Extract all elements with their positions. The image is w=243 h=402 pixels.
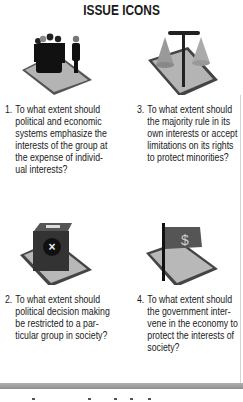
issue-question-1: 1. To what extent should political and e… bbox=[5, 104, 106, 176]
question-line: the majority rule in its bbox=[147, 116, 238, 128]
page-title: ISSUE ICONS bbox=[18, 2, 225, 18]
majority-minority-scale-icon bbox=[140, 25, 220, 95]
issue-question-2: 2. To what extent should political decis… bbox=[5, 294, 106, 342]
dollar-flag-icon: $ bbox=[140, 215, 220, 285]
issue-question-3: 3. To what extent should the majority ru… bbox=[137, 104, 238, 164]
group-vs-individual-icon bbox=[14, 25, 94, 95]
question-line: ticular group in society? bbox=[15, 330, 106, 342]
question-line: vene in the economy to bbox=[147, 318, 238, 330]
question-line: interests of the group at bbox=[15, 140, 106, 152]
question-line: the government inter- bbox=[147, 306, 238, 318]
issue-number: 4. bbox=[137, 294, 144, 306]
question-line: be restricted to a par- bbox=[15, 318, 106, 330]
clipped-text-fragment bbox=[0, 398, 243, 402]
question-line: To what extent should bbox=[147, 294, 238, 306]
svg-text:×: × bbox=[48, 240, 55, 254]
question-line: own interests or accept bbox=[147, 128, 238, 140]
issue-number: 2. bbox=[5, 294, 12, 306]
question-line: political decision making bbox=[15, 306, 106, 318]
ballot-box-icon: × bbox=[14, 215, 94, 285]
question-line: To what extent should bbox=[147, 104, 238, 116]
svg-text:$: $ bbox=[181, 232, 189, 248]
question-line: the expense of individ- bbox=[15, 152, 106, 164]
question-line: to protect minorities? bbox=[147, 152, 238, 164]
issue-number: 3. bbox=[137, 104, 144, 116]
question-line: society? bbox=[147, 342, 238, 354]
issue-number: 1. bbox=[5, 104, 12, 116]
question-line: protect the interests of bbox=[147, 330, 238, 342]
question-line: To what extent should bbox=[15, 104, 106, 116]
question-line: limitations on its rights bbox=[147, 140, 238, 152]
question-line: ual interests? bbox=[15, 164, 106, 176]
question-line: political and economic bbox=[15, 116, 106, 128]
margin-rule bbox=[240, 95, 241, 385]
issue-question-4: 4. To what extent should the government … bbox=[137, 294, 238, 354]
section-divider-bar bbox=[0, 383, 243, 389]
question-line: systems emphasize the bbox=[15, 128, 106, 140]
question-line: To what extent should bbox=[15, 294, 106, 306]
